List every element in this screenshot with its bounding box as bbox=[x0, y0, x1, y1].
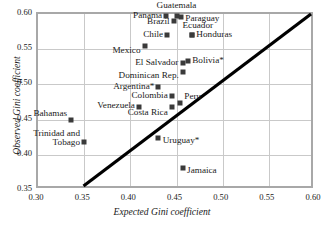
data-point[interactable] bbox=[165, 33, 170, 38]
point-label: Bolivia* bbox=[192, 56, 224, 66]
x-tick-label: 0.50 bbox=[213, 192, 228, 202]
data-point[interactable] bbox=[180, 60, 185, 65]
gini-scatter-chart: GuatemalaPanamaParaguayBrazilEcuadorChil… bbox=[0, 0, 324, 225]
data-point[interactable] bbox=[156, 135, 161, 140]
data-point[interactable] bbox=[180, 69, 185, 74]
point-label: Chile bbox=[143, 30, 163, 40]
data-point[interactable] bbox=[180, 165, 185, 170]
data-point[interactable] bbox=[69, 117, 74, 122]
point-label: Uruguay* bbox=[163, 136, 200, 146]
y-tick-label: 0.35 bbox=[2, 183, 32, 193]
data-point[interactable] bbox=[186, 59, 191, 64]
y-tick-label: 0.60 bbox=[2, 7, 32, 17]
x-axis-title: Expected Gini coefficient bbox=[0, 206, 324, 217]
data-point[interactable] bbox=[190, 33, 195, 38]
data-point[interactable] bbox=[142, 44, 147, 49]
point-label: Bahamas bbox=[33, 109, 67, 119]
point-label: Guatemala bbox=[157, 1, 197, 11]
x-tick-label: 0.40 bbox=[121, 192, 136, 202]
data-point[interactable] bbox=[82, 140, 87, 145]
data-point[interactable] bbox=[172, 19, 177, 24]
data-point[interactable] bbox=[156, 84, 161, 89]
x-tick-label: 0.30 bbox=[28, 192, 43, 202]
identity-reference-line bbox=[38, 14, 311, 186]
x-tick-label: 0.45 bbox=[167, 192, 182, 202]
point-label: Mexico bbox=[112, 46, 140, 56]
point-label: El Salvador bbox=[135, 58, 178, 68]
data-point[interactable] bbox=[178, 101, 183, 106]
point-label: Trinidad andTobago bbox=[33, 129, 80, 147]
y-axis-title: Observed Gini coefficient bbox=[11, 36, 22, 176]
point-label: Colombia bbox=[131, 91, 167, 101]
point-label: Costa Rica bbox=[128, 108, 168, 118]
x-tick-label: 0.60 bbox=[305, 192, 320, 202]
point-label: Peru bbox=[184, 93, 201, 103]
x-tick-label: 0.35 bbox=[75, 192, 90, 202]
point-label: Brazil bbox=[147, 17, 169, 27]
point-label: Dominican Rep. bbox=[119, 71, 179, 81]
plot-area: GuatemalaPanamaParaguayBrazilEcuadorChil… bbox=[36, 12, 313, 188]
point-label: Jamaica bbox=[187, 166, 217, 176]
x-tick-label: 0.55 bbox=[259, 192, 274, 202]
data-point[interactable] bbox=[169, 94, 174, 99]
point-label: Honduras bbox=[196, 30, 232, 40]
data-point[interactable] bbox=[169, 105, 174, 110]
